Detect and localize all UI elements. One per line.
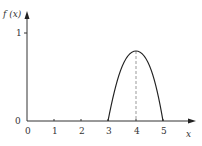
y-axis-arrow-icon (25, 11, 30, 19)
x-tick-label-1: 1 (52, 126, 58, 136)
x-axis-arrow-icon (188, 119, 196, 124)
y-axis-label: f (x) (2, 9, 22, 19)
x-tick-label-5: 5 (161, 126, 167, 136)
chart-canvas: f (x) 1 0 0 1 2 3 4 5 x (0, 0, 202, 146)
y-tick-label-0: 0 (15, 116, 21, 126)
x-tick-label-3: 3 (106, 126, 112, 136)
x-axis-label: x (186, 129, 191, 139)
x-tick-label-4: 4 (134, 126, 140, 136)
x-tick-label-0: 0 (25, 126, 31, 136)
y-tick-label-1: 1 (16, 28, 22, 38)
x-tick-label-2: 2 (79, 126, 85, 136)
